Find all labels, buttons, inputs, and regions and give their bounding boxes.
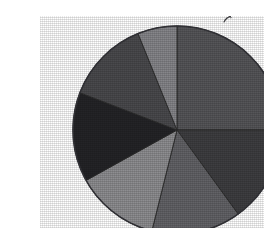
page-canvas: Slice 1 — 25%Slice 2 — 15%Slice 3 — 14%S…: [0, 0, 264, 228]
pie-slice-1[interactable]: Slice 1 — 25%: [177, 26, 264, 130]
pie-slice-group: Slice 1 — 25%Slice 2 — 15%Slice 3 — 14%S…: [73, 26, 264, 228]
pie-chart-figure: Slice 1 — 25%Slice 2 — 15%Slice 3 — 14%S…: [40, 16, 264, 228]
pie-chart: Slice 1 — 25%Slice 2 — 15%Slice 3 — 14%S…: [40, 16, 264, 228]
